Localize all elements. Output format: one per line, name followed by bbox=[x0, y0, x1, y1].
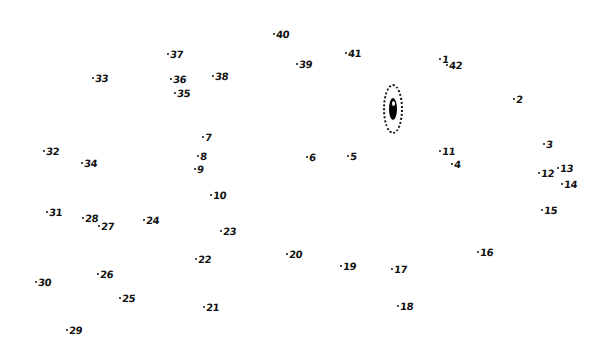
dot-marker[interactable] bbox=[340, 265, 342, 267]
dot-to-dot-canvas: 1234567891011121314151617181920212223242… bbox=[0, 0, 599, 353]
dot-marker[interactable] bbox=[513, 98, 515, 100]
dot-marker[interactable] bbox=[347, 155, 349, 157]
dot-marker[interactable] bbox=[538, 172, 540, 174]
dot-number-label: 30 bbox=[37, 277, 51, 288]
dot-marker[interactable] bbox=[439, 58, 441, 60]
dot-marker[interactable] bbox=[197, 155, 199, 157]
dot-marker[interactable] bbox=[97, 273, 99, 275]
dot-number-label: 23 bbox=[222, 226, 236, 237]
dot-number-label: 29 bbox=[68, 325, 82, 336]
eye-glint bbox=[392, 101, 395, 106]
dot-marker[interactable] bbox=[202, 136, 204, 138]
dot-number-label: 13 bbox=[559, 163, 573, 174]
dot-marker[interactable] bbox=[143, 219, 145, 221]
dot-number-label: 9 bbox=[196, 164, 204, 175]
dot-marker[interactable] bbox=[66, 329, 68, 331]
dot-number-label: 22 bbox=[197, 254, 211, 265]
dot-marker[interactable] bbox=[210, 194, 212, 196]
dot-number-label: 33 bbox=[94, 73, 108, 84]
dot-marker[interactable] bbox=[203, 306, 205, 308]
dot-marker[interactable] bbox=[477, 251, 479, 253]
dot-number-label: 15 bbox=[543, 205, 557, 216]
dot-number-label: 20 bbox=[288, 249, 302, 260]
dot-number-label: 2 bbox=[515, 94, 523, 105]
dot-marker[interactable] bbox=[451, 163, 453, 165]
dot-number-label: 40 bbox=[275, 29, 289, 40]
dot-marker[interactable] bbox=[220, 230, 222, 232]
dot-number-label: 28 bbox=[84, 213, 98, 224]
dot-number-label: 8 bbox=[199, 151, 207, 162]
dot-number-label: 31 bbox=[48, 207, 62, 218]
dot-marker[interactable] bbox=[98, 225, 100, 227]
dot-marker[interactable] bbox=[439, 150, 441, 152]
dot-marker[interactable] bbox=[119, 297, 121, 299]
dot-marker[interactable] bbox=[391, 268, 393, 270]
dot-number-label: 17 bbox=[393, 264, 407, 275]
dot-marker[interactable] bbox=[345, 52, 347, 54]
dot-marker[interactable] bbox=[194, 168, 196, 170]
dot-number-label: 11 bbox=[441, 146, 455, 157]
dot-marker[interactable] bbox=[296, 63, 298, 65]
dot-number-label: 10 bbox=[212, 190, 226, 201]
dot-number-label: 24 bbox=[145, 215, 159, 226]
dot-marker[interactable] bbox=[212, 75, 214, 77]
dot-number-label: 5 bbox=[349, 151, 357, 162]
dot-marker[interactable] bbox=[81, 162, 83, 164]
dot-marker[interactable] bbox=[541, 209, 543, 211]
dot-number-label: 19 bbox=[342, 261, 356, 272]
dot-number-label: 7 bbox=[204, 132, 212, 143]
dot-number-label: 35 bbox=[176, 88, 190, 99]
dot-number-label: 21 bbox=[205, 302, 219, 313]
dot-number-label: 27 bbox=[100, 221, 114, 232]
dot-marker[interactable] bbox=[195, 258, 197, 260]
dot-marker[interactable] bbox=[82, 217, 84, 219]
dot-number-label: 38 bbox=[214, 71, 228, 82]
dot-marker[interactable] bbox=[273, 33, 275, 35]
dot-number-label: 34 bbox=[83, 158, 97, 169]
dot-number-label: 4 bbox=[453, 159, 461, 170]
dot-marker[interactable] bbox=[170, 78, 172, 80]
dot-number-label: 32 bbox=[45, 146, 59, 157]
dot-marker[interactable] bbox=[286, 253, 288, 255]
dot-number-label: 18 bbox=[399, 301, 413, 312]
dot-marker[interactable] bbox=[43, 150, 45, 152]
dot-marker[interactable] bbox=[397, 305, 399, 307]
dot-marker[interactable] bbox=[306, 156, 308, 158]
dot-marker[interactable] bbox=[174, 92, 176, 94]
dot-number-label: 26 bbox=[99, 269, 113, 280]
dot-marker[interactable] bbox=[561, 183, 563, 185]
dot-marker[interactable] bbox=[46, 211, 48, 213]
dot-number-label: 12 bbox=[540, 168, 554, 179]
dot-marker[interactable] bbox=[557, 167, 559, 169]
dot-number-label: 41 bbox=[347, 48, 361, 59]
dot-number-label: 37 bbox=[169, 49, 183, 60]
dot-marker[interactable] bbox=[543, 143, 545, 145]
dot-marker[interactable] bbox=[446, 64, 448, 66]
dot-marker[interactable] bbox=[92, 77, 94, 79]
dot-marker[interactable] bbox=[167, 53, 169, 55]
dot-number-label: 36 bbox=[172, 74, 186, 85]
dot-marker[interactable] bbox=[35, 281, 37, 283]
dot-number-label: 3 bbox=[545, 139, 553, 150]
dot-number-label: 16 bbox=[479, 247, 493, 258]
dot-number-label: 6 bbox=[308, 152, 316, 163]
dot-number-label: 42 bbox=[448, 60, 462, 71]
dot-number-label: 25 bbox=[121, 293, 135, 304]
dot-number-label: 14 bbox=[563, 179, 577, 190]
dot-number-label: 39 bbox=[298, 59, 312, 70]
